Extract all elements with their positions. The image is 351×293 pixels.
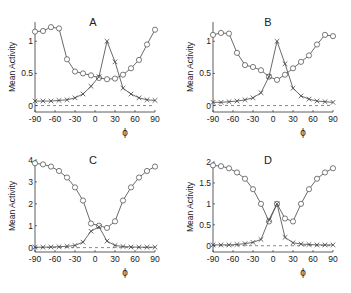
x-tick-label: -60 <box>49 254 62 264</box>
circle-marker <box>88 221 93 226</box>
circle-marker <box>64 175 69 180</box>
cross-marker <box>283 61 288 66</box>
x-tick-label: 0 <box>271 254 276 264</box>
x-tick-label: -60 <box>227 114 240 124</box>
circle-marker <box>306 187 311 192</box>
y-axis-label: Mean Activity <box>185 181 195 232</box>
x-tick-label: 60 <box>308 114 318 124</box>
circle-marker <box>56 26 61 31</box>
circle-marker <box>152 27 157 32</box>
circle-marker <box>80 71 85 76</box>
circle-marker <box>56 168 61 173</box>
circle-marker <box>72 185 77 190</box>
circle-marker <box>258 68 263 73</box>
circle-marker <box>290 219 295 224</box>
y-axis-label: Mean Activity <box>7 180 17 231</box>
circle-marker <box>136 57 141 62</box>
circle-marker <box>32 161 37 166</box>
x-tick-label: -30 <box>69 254 82 264</box>
y-tick-label: 2 <box>28 199 33 209</box>
panel-a: -90-60-30030609000.51AMean Activityϕ <box>0 0 175 146</box>
circle-marker <box>242 62 247 67</box>
x-tick-label: -90 <box>29 254 42 264</box>
x-tick-label: -30 <box>247 114 260 124</box>
x-tick-label: 90 <box>328 254 338 264</box>
x-axis-label: ϕ <box>122 267 128 278</box>
y-tick-label: 1 <box>206 36 211 46</box>
cross-marker <box>291 86 296 91</box>
x-axis-label: ϕ <box>300 127 306 138</box>
circle-marker <box>282 216 287 221</box>
x-tick-label: -30 <box>247 254 260 264</box>
x-tick-label: -90 <box>207 114 220 124</box>
circle-marker <box>314 176 319 181</box>
circle-marker <box>218 30 223 35</box>
circle-marker <box>48 164 53 169</box>
x-tick-label: 30 <box>110 254 120 264</box>
x-tick-label: 60 <box>130 114 140 124</box>
cross-marker <box>105 239 110 244</box>
y-tick-label: 1 <box>28 36 33 46</box>
circle-marker <box>298 201 303 206</box>
x-axis-label: ϕ <box>300 267 306 278</box>
crosses-line <box>35 41 155 101</box>
x-tick-label: -30 <box>69 114 82 124</box>
x-tick-label: 90 <box>328 114 338 124</box>
circle-marker <box>282 72 287 77</box>
circle-marker <box>234 170 239 175</box>
circle-marker <box>40 162 45 167</box>
y-tick-label: 0 <box>28 243 33 253</box>
chart-title: D <box>264 154 272 166</box>
circle-marker <box>112 76 117 81</box>
circle-marker <box>330 34 335 39</box>
chart-a: -90-60-30030609000.51AMean Activityϕ <box>0 0 175 146</box>
chart-d: -90-60-30030609000.511.52DMean Activityϕ <box>175 146 351 293</box>
chart-title: A <box>89 16 97 28</box>
x-tick-label: 30 <box>288 114 298 124</box>
circle-marker <box>218 164 223 169</box>
chart-c: -90-60-30030609001234CMean Activityϕ <box>0 146 175 293</box>
chart-b: -90-60-30030609000.51BMean Activityϕ <box>175 0 351 146</box>
circle-marker <box>274 77 279 82</box>
y-axis-label: Mean Activity <box>7 41 17 92</box>
circle-marker <box>88 73 93 78</box>
y-tick-label: 0.5 <box>199 68 211 78</box>
cross-marker <box>259 90 264 95</box>
circle-marker <box>226 31 231 36</box>
panel-d: -90-60-30030609000.511.52DMean Activityϕ <box>175 146 350 292</box>
crosses-line <box>213 41 333 102</box>
circle-marker <box>128 185 133 190</box>
cross-marker <box>113 60 118 65</box>
x-tick-label: -60 <box>227 254 240 264</box>
circle-marker <box>152 164 157 169</box>
x-tick-label: 60 <box>308 254 318 264</box>
circle-marker <box>306 53 311 58</box>
cross-marker <box>299 94 304 99</box>
circle-marker <box>250 187 255 192</box>
circle-marker <box>242 176 247 181</box>
circle-marker <box>144 42 149 47</box>
circle-marker <box>330 166 335 171</box>
y-tick-label: 3 <box>28 177 33 187</box>
circle-marker <box>210 32 215 37</box>
circle-marker <box>298 59 303 64</box>
chart-title: C <box>89 154 97 166</box>
circle-marker <box>112 219 117 224</box>
x-tick-label: 0 <box>93 254 98 264</box>
circle-marker <box>72 69 77 74</box>
circle-marker <box>128 66 133 71</box>
circle-marker <box>226 166 231 171</box>
y-axis-label: Mean Activity <box>185 41 195 92</box>
cross-marker <box>81 92 86 97</box>
y-tick-label: 0 <box>206 241 211 251</box>
circle-marker <box>104 225 109 230</box>
x-tick-label: 0 <box>93 114 98 124</box>
y-tick-label: 1.5 <box>199 178 211 188</box>
y-tick-label: 0.5 <box>199 220 211 230</box>
circle-marker <box>136 175 141 180</box>
crosses-line <box>35 227 155 247</box>
circle-marker <box>120 198 125 203</box>
circles-line <box>35 27 155 79</box>
cross-marker <box>89 84 94 89</box>
x-tick-label: -90 <box>207 254 220 264</box>
